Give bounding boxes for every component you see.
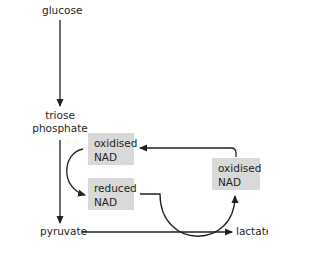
oxidised-nad-right-line1: oxidised [218, 161, 260, 175]
reduced-nad-box: reduced NAD [88, 178, 134, 210]
reduced-nad-line2: NAD [94, 195, 134, 209]
oxidised-nad-right-box: oxidised NAD [212, 158, 260, 190]
glucose-label: glucose [42, 4, 78, 17]
reduced-nad-line1: reduced [94, 181, 134, 195]
triose-label: triose [36, 109, 84, 122]
pyruvate-label: pyruvate [40, 225, 82, 238]
oxidised-nad-left-box: oxidised NAD [88, 133, 134, 165]
oxidised-nad-left-line1: oxidised [94, 136, 134, 150]
oxidised-nad-left-line2: NAD [94, 150, 134, 164]
lactate-label: lactate [236, 225, 268, 238]
phosphate-label: phosphate [32, 122, 88, 135]
oxidised-nad-right-line2: NAD [218, 175, 260, 189]
